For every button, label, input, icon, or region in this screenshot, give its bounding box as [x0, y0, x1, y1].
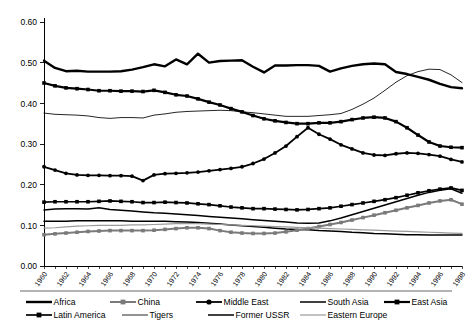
data-point-marker [42, 233, 46, 237]
x-tick-label: 1988 [341, 270, 358, 288]
data-point-marker [108, 199, 112, 203]
data-point-marker [196, 202, 200, 206]
data-point-marker [328, 206, 332, 210]
data-point-marker [97, 173, 101, 177]
data-point-marker [218, 103, 222, 107]
data-point-marker [207, 169, 211, 173]
data-point-marker [383, 153, 387, 157]
data-point-marker [416, 151, 420, 155]
data-point-marker [152, 89, 156, 93]
data-point-marker [141, 90, 145, 94]
y-tick-label: 0.40 [20, 99, 37, 109]
x-tick-label: 1994 [407, 270, 424, 288]
data-point-marker [350, 218, 354, 222]
data-point-marker [229, 205, 233, 209]
data-point-marker [295, 135, 299, 139]
legend-label: Middle East [224, 297, 270, 307]
legend-item-china[interactable]: China [110, 297, 160, 307]
data-point-marker [449, 158, 453, 162]
legend-item-east-asia[interactable]: East Asia [384, 297, 448, 307]
data-point-marker [130, 174, 134, 178]
x-tick-label: 1968 [121, 270, 138, 288]
data-point-marker [306, 126, 310, 130]
data-point-marker [97, 229, 101, 233]
series-lines [42, 54, 464, 237]
data-point-marker [141, 229, 145, 233]
data-point-marker [372, 200, 376, 204]
data-point-marker [427, 153, 431, 157]
legend-label: Latin America [54, 310, 106, 320]
data-point-marker [306, 208, 310, 212]
data-point-marker [196, 170, 200, 174]
series-line [44, 189, 462, 224]
legend-item-africa[interactable]: Africa [26, 297, 76, 307]
data-point-marker [328, 223, 332, 227]
data-point-marker [86, 200, 90, 204]
data-point-marker [251, 232, 255, 236]
data-point-marker [273, 151, 277, 155]
data-point-marker [372, 115, 376, 119]
data-point-marker [350, 118, 354, 122]
data-point-marker [405, 193, 409, 197]
x-tick-label: 1980 [253, 270, 270, 288]
data-point-marker [317, 207, 321, 211]
x-tick-label: 1966 [99, 270, 116, 288]
data-point-marker [174, 93, 178, 97]
data-point-marker [207, 203, 211, 207]
y-tick-label: 0.30 [20, 139, 37, 149]
data-point-marker [207, 227, 211, 231]
data-point-marker [438, 144, 442, 148]
data-point-marker [86, 173, 90, 177]
data-point-marker [64, 200, 68, 204]
y-axis: 0.000.100.200.300.400.500.60 [20, 17, 44, 271]
x-tick-label: 1970 [143, 270, 160, 288]
y-tick-label: 0.00 [20, 261, 37, 271]
data-point-marker [273, 119, 277, 123]
data-point-marker [317, 132, 321, 136]
data-point-marker [284, 230, 288, 234]
data-point-marker [218, 229, 222, 233]
data-point-marker [64, 171, 68, 175]
legend-label: Africa [54, 297, 76, 307]
series-latin-america [42, 186, 464, 212]
legend-item-former-ussr[interactable]: Former USSR [208, 310, 289, 320]
data-point-marker [383, 211, 387, 215]
data-point-marker [75, 200, 79, 204]
legend-item-south-asia[interactable]: South Asia [300, 297, 369, 307]
legend-item-latin-america[interactable]: Latin America [26, 310, 106, 320]
data-point-marker [42, 200, 46, 204]
data-point-marker [306, 122, 310, 126]
data-point-marker [207, 100, 211, 104]
data-point-marker [152, 228, 156, 232]
legend-label: Former USSR [236, 310, 290, 320]
data-point-marker [53, 84, 57, 88]
data-point-marker [196, 226, 200, 230]
data-point-marker [42, 165, 46, 169]
legend-item-eastern-europe[interactable]: Eastern Europe [300, 310, 387, 320]
data-point-marker [427, 140, 431, 144]
legend-swatch-square-marker [37, 313, 42, 318]
data-point-marker [416, 191, 420, 195]
x-tick-label: 1976 [209, 270, 226, 288]
x-tick-label: 1990 [363, 270, 380, 288]
data-point-marker [361, 151, 365, 155]
x-tick-label: 1978 [231, 270, 248, 288]
legend-item-tigers[interactable]: Tigers [122, 310, 173, 320]
data-point-marker [130, 200, 134, 204]
legend-swatch-square-marker [121, 300, 126, 305]
data-point-marker [273, 231, 277, 235]
x-tick-label: 1998 [451, 270, 468, 288]
data-point-marker [64, 86, 68, 90]
data-point-marker [240, 165, 244, 169]
series-line [44, 69, 462, 118]
data-point-marker [361, 216, 365, 220]
data-point-marker [185, 201, 189, 205]
data-point-marker [427, 201, 431, 205]
data-point-marker [163, 91, 167, 95]
data-point-marker [185, 226, 189, 230]
data-point-marker [163, 228, 167, 232]
legend-item-middle-east[interactable]: Middle East [196, 297, 269, 307]
data-point-marker [295, 208, 299, 212]
data-point-marker [97, 200, 101, 204]
data-point-marker [339, 120, 343, 124]
